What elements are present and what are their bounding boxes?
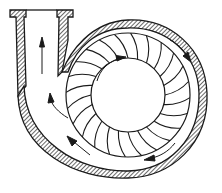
left-volute-arrow-upper-icon — [48, 93, 68, 118]
outlet-left-wall — [10, 10, 26, 96]
impeller — [66, 33, 190, 157]
outlet-arrow-icon — [40, 37, 45, 74]
hub — [91, 58, 165, 132]
pump-diagram — [0, 0, 222, 193]
pump-svg — [0, 0, 222, 193]
